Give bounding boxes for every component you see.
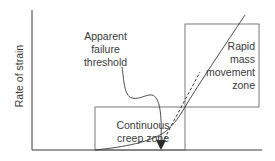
annotation-line-3: threshold bbox=[68, 56, 143, 69]
creep-zone-line-1: Continuous bbox=[108, 119, 178, 132]
creep-zone-line-2: creep zone bbox=[108, 132, 178, 145]
continuous-creep-zone-label: Continuous creep zone bbox=[108, 119, 178, 145]
rapid-zone-line-4: zone bbox=[195, 79, 255, 92]
strain-rate-diagram: Rate of strain Apparent failure threshol… bbox=[0, 0, 275, 161]
rapid-zone-line-3: movement bbox=[195, 66, 255, 79]
rapid-zone-line-1: Rapid bbox=[195, 40, 255, 53]
rapid-zone-line-2: mass bbox=[195, 53, 255, 66]
annotation-line-1: Apparent bbox=[68, 30, 143, 43]
y-axis-label: Rate of strain bbox=[13, 41, 25, 111]
rapid-mass-movement-zone-label: Rapid mass movement zone bbox=[195, 40, 255, 92]
annotation-line-2: failure bbox=[68, 43, 143, 56]
annotation-label: Apparent failure threshold bbox=[68, 30, 143, 69]
